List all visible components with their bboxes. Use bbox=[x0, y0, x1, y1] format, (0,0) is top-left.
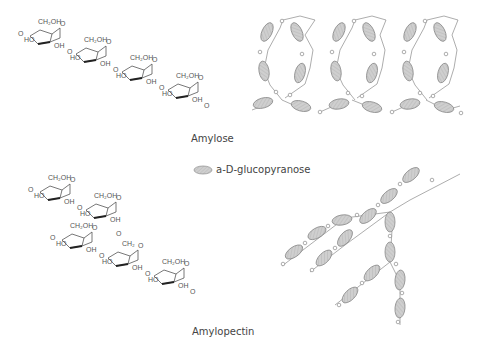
svg-text:CH₂OH: CH₂OH bbox=[38, 18, 61, 25]
svg-text:HO: HO bbox=[148, 276, 159, 283]
svg-text:O: O bbox=[204, 102, 210, 109]
svg-text:OH: OH bbox=[86, 246, 97, 253]
svg-text:OH: OH bbox=[100, 60, 111, 67]
svg-text:O: O bbox=[106, 38, 112, 45]
amylopectin-branch-model bbox=[282, 174, 460, 325]
svg-text:HO: HO bbox=[162, 90, 173, 97]
svg-text:O: O bbox=[116, 230, 122, 237]
diagram-canvas: CH₂OH HO OH O O O CH₂OH HO OH O O CH₂OH … bbox=[0, 0, 486, 354]
svg-text:OH: OH bbox=[146, 78, 157, 85]
svg-text:O: O bbox=[28, 186, 34, 193]
svg-text:OH: OH bbox=[192, 96, 203, 103]
svg-text:OH: OH bbox=[110, 216, 121, 223]
svg-text:O: O bbox=[50, 234, 56, 241]
legend-glucose-unit-icon bbox=[194, 166, 212, 174]
svg-text:OH: OH bbox=[178, 282, 189, 289]
amylopectin-oxygen-links bbox=[281, 178, 434, 324]
svg-text:CH₂OH: CH₂OH bbox=[94, 192, 117, 199]
amylopectin-label: Amylopectin bbox=[192, 326, 254, 337]
svg-text:HO: HO bbox=[70, 54, 81, 61]
svg-text:O: O bbox=[152, 56, 158, 63]
svg-text:O: O bbox=[70, 176, 76, 183]
legend-label: a-D-glucopyranose bbox=[216, 164, 310, 175]
svg-text:CH₂OH: CH₂OH bbox=[176, 72, 199, 79]
amylopectin-structure: CH₂OH HO OH O O O CH₂OH HO OH O O CH₂OH … bbox=[28, 174, 196, 295]
svg-text:CH₂OH: CH₂OH bbox=[84, 36, 107, 43]
svg-text:O: O bbox=[60, 20, 66, 27]
svg-text:CH₂OH: CH₂OH bbox=[70, 222, 93, 229]
amylose-helix-model bbox=[252, 16, 460, 112]
svg-text:CH₂OH: CH₂OH bbox=[162, 258, 185, 265]
amylose-oxygen-links bbox=[258, 19, 463, 115]
svg-text:HO: HO bbox=[56, 240, 67, 247]
svg-text:OH: OH bbox=[54, 42, 65, 49]
svg-text:O: O bbox=[198, 74, 204, 81]
svg-text:HO: HO bbox=[102, 258, 113, 265]
svg-text:OH: OH bbox=[64, 198, 75, 205]
svg-text:O: O bbox=[184, 260, 190, 267]
svg-text:O: O bbox=[18, 30, 24, 37]
svg-text:O: O bbox=[92, 224, 98, 231]
svg-text:HO: HO bbox=[34, 192, 45, 199]
svg-text:CH₂OH: CH₂OH bbox=[130, 54, 153, 61]
svg-text:O: O bbox=[138, 242, 144, 249]
svg-text:HO: HO bbox=[80, 210, 91, 217]
svg-text:CH₂OH: CH₂OH bbox=[48, 174, 71, 181]
amylose-label: Amylose bbox=[191, 133, 234, 144]
svg-text:HO: HO bbox=[24, 36, 35, 43]
svg-text:O: O bbox=[116, 194, 122, 201]
svg-text:CH₂: CH₂ bbox=[122, 240, 135, 247]
svg-text:OH: OH bbox=[132, 264, 143, 271]
svg-text:HO: HO bbox=[116, 72, 127, 79]
amylose-structure: CH₂OH HO OH O O O CH₂OH HO OH O O CH₂OH … bbox=[18, 18, 210, 109]
svg-text:O: O bbox=[190, 288, 196, 295]
